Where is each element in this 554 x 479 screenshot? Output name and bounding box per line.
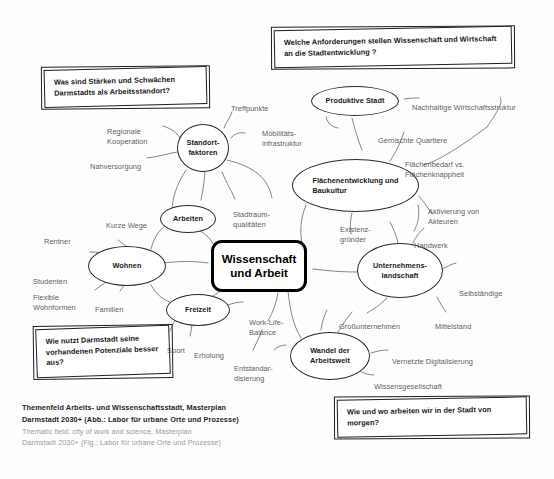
leaf-mobilitaetsinfrastruktur: Mobilitäts- infrastruktur — [262, 119, 302, 149]
leaf-label: Treffpunkte — [231, 104, 269, 113]
leaf-label: Mittelstand — [435, 322, 471, 331]
leaf-label: Regionale Kooperation — [107, 127, 147, 146]
mindmap-canvas: Was sind Stärken und Schwächen Darmstadt… — [0, 0, 554, 479]
node-standortfaktoren[interactable]: Standort- faktoren — [177, 124, 229, 172]
question-text: Welche Anforderungen stellen Wissenschaf… — [284, 34, 497, 58]
node-freizeit[interactable]: Freizeit — [166, 294, 230, 326]
leaf-label: Wissensgesellschaft — [374, 382, 442, 391]
leaf-selbstaendige: Selbständige — [459, 279, 502, 299]
node-produktive-stadt[interactable]: Produktive Stadt — [311, 86, 399, 116]
question-text: Wie und wo arbeiten wir in der Stadt von… — [347, 405, 492, 427]
leaf-kurze-wege: Kurze Wege — [106, 211, 147, 231]
leaf-label: Stadtraum- qualitäten — [233, 210, 270, 229]
leaf-gemischte-quartiere: Gemischte Quartiere — [378, 126, 447, 146]
leaf-mittelstand: Mittelstand — [435, 312, 471, 332]
question-text: Wie nutzt Darmstadt seine vorhandenen Po… — [45, 334, 158, 368]
leaf-stadtraumqualitaeten: Stadtraum- qualitäten — [233, 200, 270, 230]
leaf-label: Aktivierung von Akteuren — [428, 207, 479, 226]
node-label: Wohnen — [113, 261, 142, 271]
leaf-vernetzte-digitalisierung: Vernetzte Digitalisierung — [392, 347, 473, 367]
leaf-flaechenbedarf: Flächenbedarf vs. Flächenknappheit — [405, 150, 465, 180]
leaf-grossunternehmen: Großunternehmen — [339, 312, 400, 332]
caption-de-line2: Darmstadt 2030+ (Abb.: Labor für urbane … — [22, 414, 352, 426]
caption-en-line1: Thematic field: city of work and science… — [22, 426, 352, 438]
leaf-regionale-kooperation: Regionale Kooperation — [107, 117, 147, 147]
leaf-label: Sport — [167, 346, 185, 355]
leaf-erholung: Erholung — [194, 341, 224, 361]
leaf-treffpunkte: Treffpunkte — [231, 94, 269, 114]
leaf-label: Handwerk — [414, 241, 448, 250]
leaf-label: Kurze Wege — [106, 221, 147, 230]
question-box-staerken[interactable]: Was sind Stärken und Schwächen Darmstadt… — [44, 66, 208, 108]
leaf-label: Flächenbedarf vs. Flächenknappheit — [405, 160, 465, 179]
node-wandel-arbeitswelt[interactable]: Wandel der Arbeitswelt — [290, 332, 370, 380]
leaf-existenzgruender: Existenz- gründer — [340, 215, 371, 245]
node-label: Unternehmens- landschaft — [373, 261, 427, 281]
leaf-label: Gemischte Quartiere — [378, 136, 447, 145]
leaf-handwerk: Handwerk — [414, 231, 448, 251]
node-wohnen[interactable]: Wohnen — [88, 246, 166, 286]
leaf-label: Mobilitäts- infrastruktur — [262, 129, 302, 148]
node-label: Flächenentwicklung und Baukultur — [312, 176, 398, 196]
node-arbeiten[interactable]: Arbeiten — [160, 205, 216, 233]
leaf-label: Erholung — [194, 351, 224, 360]
question-box-potenziale[interactable]: Wie nutzt Darmstadt seine vorhandenen Po… — [35, 325, 171, 379]
center-label: Wissenschaft und Arbeit — [222, 252, 297, 281]
leaf-label: Großunternehmen — [339, 322, 400, 331]
leaf-nahversorgung: Nahversorgung — [90, 152, 141, 172]
leaf-entstandardisierung: Entstandar- disierung — [234, 354, 273, 384]
caption-en-line2: Darmstadt 2030+ (Fig.: Labor für urbane … — [22, 437, 352, 449]
leaf-label: Nachhaltige Wirtschaftsstruktur — [412, 103, 516, 112]
leaf-label: Existenz- gründer — [340, 225, 371, 244]
question-box-morgen[interactable]: Wie und wo arbeiten wir in der Stadt von… — [337, 396, 528, 438]
node-unternehmenslandschaft[interactable]: Unternehmens- landschaft — [357, 243, 443, 298]
leaf-label: Flexible Wohnformen — [33, 293, 76, 312]
caption-de-line1: Themenfeld Arbeits- und Wissenschaftssta… — [22, 402, 352, 414]
leaf-aktivierung-akteuren: Aktivierung von Akteuren — [428, 197, 479, 227]
figure-caption: Themenfeld Arbeits- und Wissenschaftssta… — [22, 402, 352, 449]
node-label: Wandel der Arbeitswelt — [310, 346, 350, 366]
node-label: Freizeit — [185, 305, 211, 315]
leaf-nachhaltige-wirtschaftsstruktur: Nachhaltige Wirtschaftsstruktur — [412, 93, 516, 113]
leaf-rentner: Rentner — [44, 227, 71, 247]
question-box-anforderungen[interactable]: Welche Anforderungen stellen Wissenschaf… — [274, 26, 513, 69]
node-label: Arbeiten — [173, 214, 203, 224]
leaf-work-life-balance: Work-Life- Balance — [249, 308, 283, 338]
leaf-label: Work-Life- Balance — [249, 318, 283, 337]
node-label: Produktive Stadt — [326, 96, 385, 106]
leaf-label: Rentner — [44, 237, 71, 246]
leaf-label: Selbständige — [459, 289, 502, 298]
question-text: Was sind Stärken und Schwächen Darmstadt… — [54, 75, 175, 98]
leaf-label: Entstandar- disierung — [234, 364, 273, 383]
leaf-sport: Sport — [167, 336, 185, 356]
leaf-label: Vernetzte Digitalisierung — [392, 357, 473, 366]
node-flaechenentwicklung[interactable]: Flächenentwicklung und Baukultur — [292, 159, 419, 212]
node-center-wissenschaft-und-arbeit[interactable]: Wissenschaft und Arbeit — [211, 240, 307, 292]
leaf-wissensgesellschaft: Wissensgesellschaft — [374, 372, 442, 392]
leaf-label: Familien — [95, 305, 123, 314]
leaf-familien: Familien — [95, 295, 123, 315]
leaf-flexible-wohnformen: Flexible Wohnformen — [33, 283, 76, 313]
node-label: Standort- faktoren — [187, 138, 220, 158]
leaf-label: Nahversorgung — [90, 162, 141, 171]
